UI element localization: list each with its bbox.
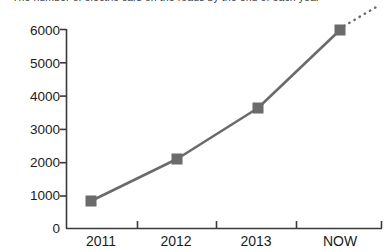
data-point-2013 <box>253 103 264 114</box>
data-line <box>91 30 340 201</box>
data-point-markers <box>86 25 346 207</box>
chart-screenshot: The number of electric cars on the roads… <box>0 0 392 252</box>
data-point-now <box>335 25 346 36</box>
chart-canvas <box>0 0 392 252</box>
x-tick-marks <box>138 221 382 228</box>
data-point-2011 <box>86 196 97 207</box>
data-point-2012 <box>172 154 183 165</box>
y-tick-marks <box>60 30 66 197</box>
line-chart: 6000 5000 4000 3000 2000 1000 0 2011 201… <box>0 0 392 252</box>
projection-dotted-line <box>344 6 378 26</box>
